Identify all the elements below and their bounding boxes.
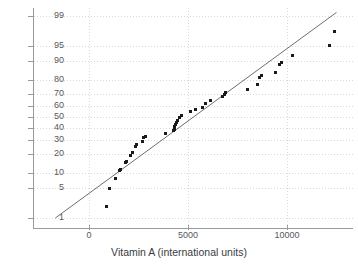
normal-probability-plot: 151020304050607080909599 0500010000 Vita…	[0, 0, 358, 264]
data-point	[189, 110, 192, 113]
data-point	[224, 91, 227, 94]
data-point	[135, 143, 138, 146]
data-point	[194, 108, 197, 111]
data-point	[333, 30, 336, 33]
data-point	[131, 151, 134, 154]
x-axis-title: Vitamin A (international units)	[0, 246, 358, 258]
data-point	[125, 160, 128, 163]
data-point	[209, 99, 212, 102]
data-point	[105, 205, 108, 208]
data-point	[246, 88, 249, 91]
data-point	[280, 61, 283, 64]
data-point	[141, 140, 144, 143]
data-point	[144, 135, 147, 138]
data-point	[260, 74, 263, 77]
data-point	[328, 44, 331, 47]
data-point	[201, 106, 204, 109]
data-point	[164, 132, 167, 135]
data-point	[204, 102, 207, 105]
reference-line	[0, 0, 358, 264]
data-point	[176, 119, 179, 122]
data-point	[291, 54, 294, 57]
data-point	[119, 168, 122, 171]
data-point	[108, 187, 111, 190]
data-point	[129, 154, 132, 157]
data-point	[256, 83, 259, 86]
data-point	[180, 114, 183, 117]
data-point	[114, 177, 117, 180]
data-point	[274, 71, 277, 74]
